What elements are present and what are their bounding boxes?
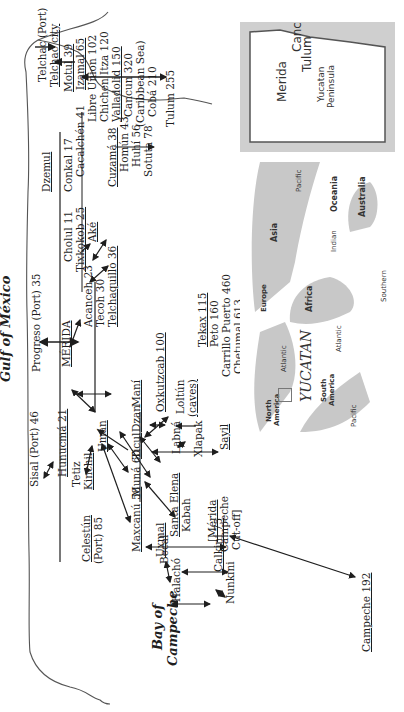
place-uman: Umán [96,420,108,452]
place-kabah: Kabah [180,498,192,532]
place-izamal: Izamal 65 [74,38,86,90]
place-telchac-port: Telchac (Port) [36,8,48,82]
place-tecoh: Tecoh 30 [94,279,106,327]
inset-yucatan-map: Cancun Tulum Merida Yucatan Peninsula [240,22,395,152]
yucatan-highlight-box [278,388,292,402]
gulf-of-mexico-label: Gulf of México [0,276,12,382]
place-loltun: Loltún [174,380,186,414]
place-progreso: Progreso (Port) 35 [30,274,42,373]
world-indian: Indian [330,230,338,252]
place-becal: Becal [158,535,170,564]
place-oxkutzcab: Oxkutzcab 100 [154,332,166,412]
place-campeche: Campeche 192 [360,573,372,652]
place-hunucma: Hunucmá 21 [56,409,68,477]
world-south-america-1: South [320,379,328,402]
world-europe: Europe [260,284,268,312]
place-motul: Motul 39 [62,44,74,92]
world-pacific-e: Pacific [295,170,303,192]
place-caribbean: (Caribbean Sea) [134,40,146,127]
place-chichen-itza: Chichen Itza 120 [98,31,110,122]
place-merida: MÉRIDA [60,321,72,367]
place-carrillo-puerto: Carrillo Puerto 460 [220,274,232,377]
place-nunkini: Nunkini [224,561,236,604]
place-celestun-1: Celestún [80,515,92,562]
world-australia: Australia [358,176,367,217]
place-mani: Maní [130,380,142,407]
place-cholul: Cholul 11 [62,211,74,262]
place-huhi: Huhí 56 [130,124,142,167]
place-telchaquillo: Telchaquillo 36 [106,246,118,327]
place-tekax: Tekax 115 [196,293,208,347]
world-atlantic-n: Atlantic [280,345,288,372]
world-oceania: Oceania [330,176,339,212]
place-dzemul-label: Dzemul [40,152,52,192]
place-cacalchen: Cacalchén 41 [74,105,86,177]
place-valladolid: Valladolid 150 [110,46,122,122]
place-kinchil: Kinchil [82,453,94,490]
place-sisal: Sisal (Port) 46 [28,411,40,487]
inset-peninsula-label-2: Peninsula [326,65,336,108]
place-ake: Aké [86,222,98,242]
place-halacho: Halachó [170,558,182,602]
place-caves: (caves) [186,379,198,417]
place-telchac-city: Telchac city [48,24,60,87]
world-yucatan-label: YUCATAN [298,330,314,402]
place-ticul: Ticul [130,433,142,459]
place-conkal: Conkal 17 [62,138,74,192]
place-homun: Homún 43 [118,116,130,172]
world-pacific-w: Pacific [350,405,358,427]
place-sotuta: Sotuta 78 [142,125,154,177]
place-coba: Cobá 210 [146,66,158,117]
place-peto: Peto 160 [208,300,220,347]
place-cancun: Cancun 320 [122,53,134,117]
place-labna: Labná [170,421,182,454]
place-tetiz: Tetiz [70,461,82,487]
bay-of-campeche-label-1: Bay of [152,604,164,650]
place-sayil: Sayil [218,424,230,450]
world-south-america-2: America [328,374,336,406]
place-cuzama: Cuzamá 38 [106,127,118,187]
place-merida-cutoff-3: Cut-off] [230,510,242,550]
place-libre-union: Libre Union 102 [86,35,98,122]
world-africa: Africa [305,286,314,313]
yucatan-route-map: Gulf of México Bay of Campeche Telchac (… [0,0,404,712]
inset-peninsula-label-1: Yucatan [316,67,326,102]
place-dzan: Dzan [130,405,142,432]
world-north-america-1: North [265,400,273,422]
world-southern: Southern [380,270,388,302]
coastline-bay [30,46,32,152]
inset-world-map: North America South America Europe Afric… [240,157,395,432]
place-celestun-2: (Port) 85 [92,517,104,564]
place-santa-elena: Santa Elena [168,473,180,537]
inset-merida-label: Merida [275,61,289,102]
world-asia: Asia [270,223,279,242]
inset-tulum-label: Tulum [300,36,314,72]
place-tixkokob: Tixkokob 25 [74,207,86,272]
place-maxcanu: Maxcanú 58 [130,487,142,552]
place-tulum: Tulum 255 [164,70,176,127]
place-calkini: Calkiní 75 [212,518,224,572]
world-atlantic-s: Atlantic [335,325,343,352]
place-xlapak: Xlapak [192,421,204,457]
place-acanceh: Acanceh 23 [82,265,94,327]
